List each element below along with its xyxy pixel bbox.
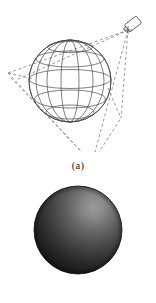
panel-a-caption: (a): [0, 161, 156, 172]
cone-edge-left-inner: [11, 78, 95, 152]
shaded-sphere-svg: [0, 180, 156, 280]
figure-root: (a): [0, 0, 156, 303]
figure-panel-a: (a): [0, 0, 156, 180]
cone-base-left-bottom: [8, 73, 92, 152]
wireframe-sphere-with-projector: [0, 0, 156, 152]
shaded-sphere-rim: [34, 186, 122, 274]
cone-edge-left: [8, 30, 128, 73]
wireframe-sphere: [29, 40, 111, 122]
latitude-south-low: [46, 105, 94, 119]
cone-base-left-right-b: [108, 88, 121, 118]
projector-icon: [122, 16, 142, 34]
figure-panel-b: (b): [0, 180, 156, 303]
wireframe-sphere-svg: [0, 0, 156, 152]
shaded-sphere: [0, 180, 156, 280]
latitude-equator: [29, 70, 111, 89]
cone-edge-left-upper-inner: [16, 32, 124, 80]
